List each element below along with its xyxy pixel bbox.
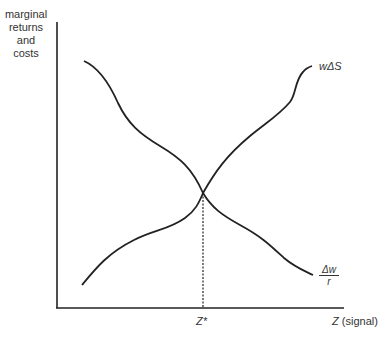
marginal-cost-curve: [84, 61, 313, 275]
marginal-cost-label: Δw r: [319, 264, 339, 287]
x-axis-label: Z (signal): [332, 315, 378, 327]
marginal-return-label: wΔS: [319, 60, 342, 72]
diagram-canvas: [0, 0, 392, 339]
marginal-cost-label-denominator: r: [319, 276, 339, 287]
equilibrium-label: Z*: [196, 315, 207, 327]
x-axis-label-variable: Z: [332, 315, 339, 327]
x-axis-label-text: (signal): [342, 315, 378, 327]
marginal-cost-label-numerator: Δw: [319, 264, 339, 276]
